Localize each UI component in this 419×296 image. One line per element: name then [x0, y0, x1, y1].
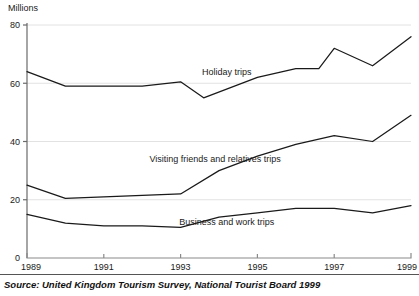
x-axis-tick-label: 1993 [171, 262, 191, 272]
series-inline-labels: Holiday tripsVisiting friends and relati… [149, 67, 281, 227]
source-divider [0, 274, 419, 275]
y-axis-tick-label: 0 [15, 253, 20, 263]
tourism-trips-line-chart: Millions 020406080 198919911993199519971… [0, 0, 419, 296]
series-label-vfr: Visiting friends and relatives trips [149, 154, 281, 164]
y-axis-tick-label: 80 [10, 20, 20, 30]
x-axis: 198919911993199519971999 [21, 253, 417, 272]
series-label-business: Business and work trips [179, 217, 275, 227]
x-axis-tick-label: 1989 [21, 262, 41, 272]
series-label-holiday: Holiday trips [202, 67, 252, 77]
y-axis: 020406080 [10, 20, 27, 263]
y-axis-tick-label: 20 [10, 195, 20, 205]
x-axis-tick-label: 1995 [247, 262, 267, 272]
y-axis-tick-label: 40 [10, 137, 20, 147]
data-series-lines [27, 37, 411, 228]
gridlines [27, 25, 411, 200]
source-caption: Source: United Kingdom Tourism Survey, N… [4, 278, 320, 291]
y-axis-tick-label: 60 [10, 79, 20, 89]
x-axis-spine [27, 253, 411, 258]
x-axis-tick-label: 1997 [324, 262, 344, 272]
x-axis-tick-label: 1999 [397, 262, 417, 272]
x-axis-tick-label: 1991 [94, 262, 114, 272]
chart-plot-area: 020406080 198919911993199519971999 Holid… [0, 0, 419, 275]
